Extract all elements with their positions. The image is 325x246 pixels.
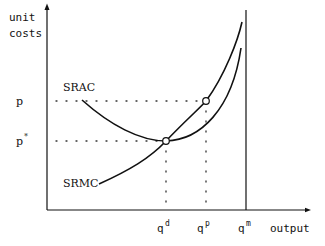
srmc-label: SRMC: [63, 177, 99, 190]
srac-label: SRAC: [63, 81, 95, 94]
svg-text:p: p: [205, 219, 210, 228]
price-label-p: p: [16, 95, 23, 108]
x-axis: [47, 208, 311, 212]
y-axis-arrow-icon: [45, 4, 50, 11]
srac-curve: [82, 48, 241, 141]
svg-text:q: q: [238, 222, 245, 235]
y-axis-label-unit: unit: [9, 11, 36, 24]
y-axis-label-costs: costs: [9, 27, 42, 40]
intersection-marker-price-p: [203, 98, 210, 105]
quantity-label-qd: q d: [157, 219, 170, 235]
intersection-marker-min-srac: [163, 138, 170, 145]
price-label-p-star: p: [16, 135, 23, 148]
cost-curves-diagram: unit costs p p * SRAC SRMC q d q p q m o…: [0, 0, 325, 246]
price-label-p-star-superscript: *: [24, 132, 28, 141]
y-axis: [45, 4, 50, 211]
quantity-label-qm: q m: [238, 219, 251, 235]
svg-text:q: q: [197, 222, 204, 235]
x-axis-label-output: output: [270, 222, 310, 235]
x-axis-arrow-icon: [305, 208, 311, 212]
quantity-label-qp: q p: [197, 219, 210, 235]
srmc-curve: [99, 22, 242, 184]
svg-text:q: q: [157, 222, 164, 235]
svg-text:m: m: [246, 219, 251, 228]
svg-text:d: d: [165, 219, 170, 228]
